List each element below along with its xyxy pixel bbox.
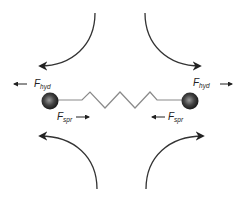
diagram-canvas: Fhyd Fhyd Fspr Fspr (0, 0, 242, 203)
spr-left-label: Fspr (57, 111, 73, 124)
flow-arrow-bottom-left (40, 136, 97, 189)
hyd-left-label: Fhyd (34, 78, 51, 91)
flow-arrow-bottom-right (146, 136, 203, 189)
hyd-right-label: Fhyd (193, 77, 210, 90)
flow-arrow-top-left (40, 13, 95, 66)
left-bead (42, 93, 59, 110)
flow-arrow-top-right (145, 13, 200, 66)
spr-right-label: Fspr (168, 111, 184, 124)
spring (55, 92, 185, 108)
right-bead (182, 93, 199, 110)
